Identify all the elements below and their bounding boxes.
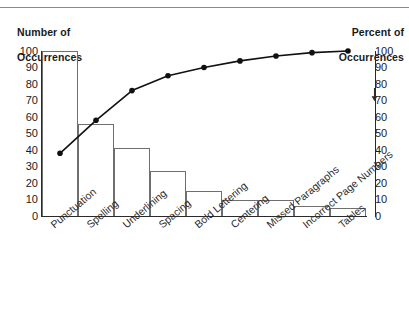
right-tick-60: 60 — [375, 112, 405, 123]
top-divider-rule — [0, 7, 409, 8]
cumulative-point-2 — [129, 88, 135, 94]
category-axis-labels: PunctuationSpellingUnderliningSpacingBol… — [0, 219, 409, 331]
pareto-chart: Number of Occurrences Percent of Occurre… — [0, 0, 409, 331]
cumulative-point-3 — [165, 73, 171, 79]
left-tick-30: 30 — [0, 161, 38, 172]
left-axis-title-line1: Number of — [17, 26, 82, 39]
left-tick-50: 50 — [0, 128, 38, 139]
right-tick-50: 50 — [375, 128, 405, 139]
right-tick-10: 10 — [375, 194, 405, 205]
right-tick-70: 70 — [375, 95, 405, 106]
left-tick-80: 80 — [0, 79, 38, 90]
left-tick-10: 10 — [0, 194, 38, 205]
cumulative-point-0 — [57, 151, 63, 157]
cumulative-point-5 — [237, 58, 243, 64]
right-tick-20: 20 — [375, 178, 405, 189]
right-axis-title-line1: Percent of — [339, 26, 404, 39]
right-tick-100: 100 — [375, 46, 405, 57]
left-tick-100: 100 — [0, 46, 38, 57]
cumulative-point-1 — [93, 118, 99, 124]
cumulative-point-7 — [309, 50, 315, 56]
right-tick-90: 90 — [375, 62, 405, 73]
left-tick-40: 40 — [0, 145, 38, 156]
left-tick-90: 90 — [0, 62, 38, 73]
right-y-axis-line — [375, 51, 376, 217]
left-tick-20: 20 — [0, 178, 38, 189]
cumulative-point-4 — [201, 65, 207, 71]
cumulative-line-points — [57, 48, 351, 156]
right-tick-80: 80 — [375, 79, 405, 90]
cumulative-point-8 — [345, 48, 351, 54]
cumulative-point-6 — [273, 53, 279, 59]
left-tick-60: 60 — [0, 112, 38, 123]
left-tick-70: 70 — [0, 95, 38, 106]
